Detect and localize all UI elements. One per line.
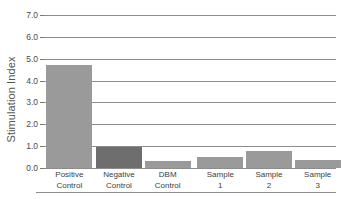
x-label-line2: 2 (245, 181, 294, 192)
x-label-sample-1: Sample1 (196, 170, 245, 191)
gridline-5.0 (44, 59, 336, 60)
baseline-rule (36, 192, 336, 193)
bar-sample-1 (197, 157, 243, 168)
gridline-6.0 (44, 37, 336, 38)
y-tick-mark (40, 146, 44, 147)
gridline-7.0 (44, 15, 336, 16)
y-tick-label: 5.0 (26, 54, 38, 64)
bar-sample-2 (246, 151, 292, 168)
x-label-line1: Positive (55, 170, 83, 179)
y-tick-label: 6.0 (26, 32, 38, 42)
x-label-line1: Sample (255, 170, 282, 179)
x-label-negative-control: NegativeControl (95, 170, 144, 191)
x-label-line1: Sample (207, 170, 234, 179)
x-label-sample-2: Sample2 (245, 170, 294, 191)
bar-positive-control (46, 65, 92, 168)
y-tick-label: 0.0 (26, 163, 38, 173)
y-tick-mark (40, 59, 44, 60)
x-label-line2: Control (143, 181, 192, 192)
y-tick-label: 1.0 (26, 141, 38, 151)
x-label-line2: Control (45, 181, 94, 192)
y-axis-title: Stimulation Index (0, 0, 22, 199)
x-label-sample-3: Sample3 (293, 170, 342, 191)
x-label-line1: DBM (159, 170, 177, 179)
y-tick-label: 4.0 (26, 76, 38, 86)
y-tick-label: 7.0 (26, 10, 38, 20)
x-label-positive-control: PositiveControl (45, 170, 94, 191)
y-tick-mark (40, 37, 44, 38)
x-label-line2: Control (95, 181, 144, 192)
y-tick-mark (40, 124, 44, 125)
y-tick-mark (40, 102, 44, 103)
y-tick-mark (40, 81, 44, 82)
x-label-line2: 1 (196, 181, 245, 192)
plot-area: 0.01.02.03.04.05.06.07.0 (44, 15, 336, 168)
y-tick-label: 2.0 (26, 119, 38, 129)
bar-dbm-control (145, 161, 191, 168)
x-label-dbm-control: DBMControl (143, 170, 192, 191)
x-label-line2: 3 (293, 181, 342, 192)
x-label-line1: Negative (103, 170, 135, 179)
y-tick-label: 3.0 (26, 97, 38, 107)
x-label-line1: Sample (304, 170, 331, 179)
bar-negative-control (96, 147, 142, 168)
gridline-0.0 (44, 168, 336, 169)
y-tick-mark (40, 15, 44, 16)
y-tick-mark (40, 168, 44, 169)
bar-sample-3 (295, 160, 341, 168)
